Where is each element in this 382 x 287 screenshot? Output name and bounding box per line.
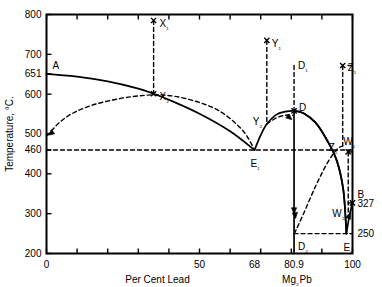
figure-background: [0, 0, 382, 287]
x-tick-label: 0: [44, 259, 50, 270]
phase-diagram-svg: 2003004004605006006517008000506880.9100A…: [0, 0, 382, 287]
y-tick-label: 460: [25, 144, 42, 155]
annotation-A: A: [53, 60, 60, 71]
y-tick-label: 300: [25, 208, 42, 219]
y-tick-label: 200: [25, 248, 42, 259]
y-tick-label: 700: [25, 49, 42, 60]
y-tick-label: 800: [25, 9, 42, 20]
x-tick-label: 50: [194, 259, 206, 270]
annotation-D: D: [299, 102, 306, 113]
y-tick-label: 400: [25, 168, 42, 179]
y-tick-label: 600: [25, 89, 42, 100]
x-axis-title: Per Cent Lead: [125, 274, 190, 285]
right-axis-label: 250: [358, 228, 375, 239]
y-axis-title: Temperature, °C.: [4, 96, 15, 172]
right-axis-label: 327: [358, 198, 375, 209]
x-tick-label: 68: [249, 259, 261, 270]
y-tick-label: 651: [25, 68, 42, 79]
x-tick-label: 80.9: [284, 259, 304, 270]
phase-diagram-figure: 2003004004605006006517008000506880.9100A…: [0, 0, 382, 287]
x-compound-label-pb: Pb: [300, 274, 313, 285]
x-tick-label: 100: [344, 259, 361, 270]
y-tick-label: 500: [25, 128, 42, 139]
